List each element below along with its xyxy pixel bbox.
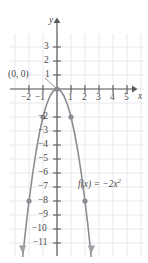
point-neg2-neg8	[26, 198, 31, 203]
xtick-label-2: 2	[82, 93, 87, 103]
ytick-label--11: −11	[33, 238, 48, 248]
point-vertex	[54, 86, 59, 91]
xtick-label--2: −2	[21, 93, 31, 103]
curve-left-arrowhead	[19, 246, 26, 254]
xtick-label-5: 5	[124, 93, 129, 103]
x-axis-arrowhead	[132, 86, 138, 93]
ytick-label--8: −8	[38, 196, 48, 206]
ytick-label--6: −6	[38, 168, 48, 178]
origin-leader-line	[45, 78, 56, 88]
function-label-text: f(x) = −2x	[78, 179, 118, 189]
ytick-label--4: −4	[38, 140, 48, 150]
xtick-label-1: 1	[68, 93, 73, 103]
ytick-label--9: −9	[38, 210, 48, 220]
ytick-label-2: 2	[44, 56, 49, 66]
xtick-label--1: −1	[35, 93, 45, 103]
ytick-label--5: −5	[38, 154, 48, 164]
ytick-label-1: 1	[45, 70, 50, 80]
point-pos2-neg8	[82, 198, 87, 203]
curve-right-arrowhead	[88, 246, 95, 254]
function-label: f(x) = −2x2	[78, 178, 121, 190]
ytick-label--10: −10	[32, 224, 47, 234]
ytick-label-3: 3	[44, 42, 49, 52]
x-axis-label: x	[138, 92, 142, 102]
y-axis-label: y	[49, 16, 53, 26]
ytick-label--2: −2	[38, 112, 48, 122]
xtick-label-4: 4	[110, 93, 115, 103]
parabola-graph	[0, 0, 148, 263]
function-label-exponent: 2	[118, 177, 121, 184]
ytick-label--7: −7	[38, 182, 48, 192]
origin-point-label: (0, 0)	[8, 70, 29, 80]
y-axis-arrowhead	[54, 18, 61, 24]
xtick-label-3: 3	[96, 93, 101, 103]
ytick-label--3: −3	[38, 126, 48, 136]
point-pos1-neg2	[68, 114, 73, 119]
